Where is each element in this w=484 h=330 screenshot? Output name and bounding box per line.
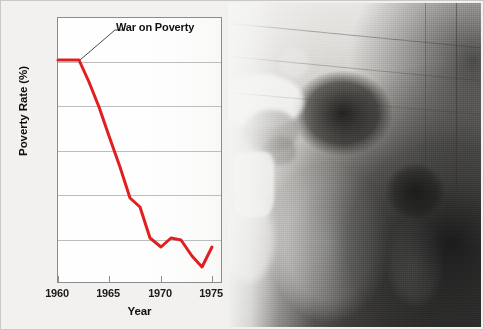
annotation-leader-line <box>80 30 123 60</box>
x-tick-label-1960: 1960 <box>45 287 69 299</box>
y-axis-label: Poverty Rate (%) <box>17 51 29 171</box>
poverty-rate-line <box>58 60 212 267</box>
war-on-poverty-annotation: War on Poverty <box>116 21 194 33</box>
x-tick-label-1965: 1965 <box>96 287 120 299</box>
poverty-rate-chart: Poverty Rate (%) 20 18 16 14 12 10 8 <box>0 0 300 330</box>
poverty-rate-figure: Poverty Rate (%) 20 18 16 14 12 10 8 <box>0 0 484 330</box>
data-line-svg <box>58 18 223 284</box>
x-tick-label-1970: 1970 <box>148 287 172 299</box>
x-axis-label: Year <box>57 305 222 317</box>
x-tick-label-1975: 1975 <box>199 287 223 299</box>
plot-area <box>57 17 222 283</box>
